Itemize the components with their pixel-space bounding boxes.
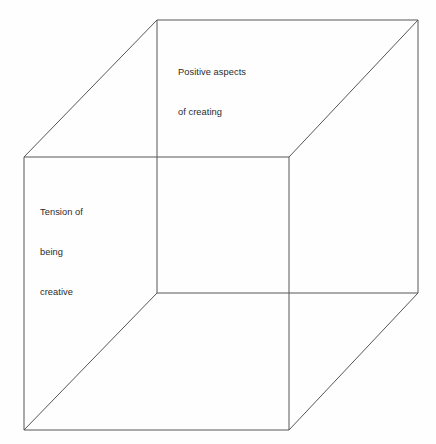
- label-positive-aspects-line-1: Positive aspects: [178, 66, 246, 79]
- label-positive-aspects-of-creating: Positive aspects of creating: [178, 40, 246, 146]
- connector-edge-top-right: [289, 20, 418, 157]
- label-tension-line-3: creative: [40, 286, 83, 299]
- label-tension-line-2: being: [40, 246, 83, 259]
- label-positive-aspects-line-2: of creating: [178, 106, 246, 119]
- cube-diagram: Positive aspects of creating Tension of …: [0, 0, 436, 444]
- label-tension-of-being-creative: Tension of being creative: [40, 180, 83, 325]
- label-tension-line-1: Tension of: [40, 206, 83, 219]
- connector-edge-top-left: [24, 20, 157, 157]
- connector-edge-bottom-right: [289, 293, 418, 430]
